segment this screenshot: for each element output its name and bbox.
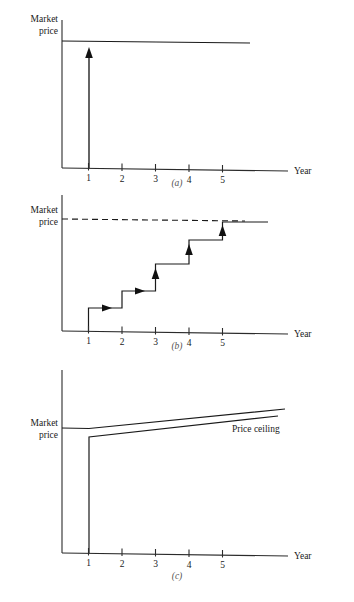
chart-panel-c: Market price Price ceiling 1 2 3 4 5 Yea…: [0, 358, 354, 588]
step-adjustment-path-b: [89, 222, 269, 331]
step-arrow-right-1-b: [102, 304, 112, 311]
y-axis-label-c-line2: price: [39, 430, 58, 440]
step-arrow-right-2-b: [135, 287, 145, 294]
panel-caption-c: (c): [0, 571, 354, 581]
x-axis-label-a: Year: [294, 166, 312, 176]
figure-container: Market price 1 2 3 4 5 Year (a) Market p…: [0, 0, 354, 602]
price-ceiling-line-c: [89, 416, 278, 553]
panel-caption-b: (b): [0, 341, 354, 351]
y-axis-label-b-line1: Market: [31, 205, 59, 215]
market-price-line-a: [62, 41, 250, 43]
step-arrow-up-4-b: [185, 244, 193, 255]
tick-label-c-4: 4: [187, 560, 192, 570]
y-axis-label-c-line1: Market: [31, 418, 59, 428]
y-axis-label-a-line1: Market: [31, 14, 59, 24]
panel-caption-a: (a): [0, 178, 354, 188]
tick-label-c-5: 5: [220, 560, 225, 570]
chart-panel-b: Market price 1 2 3 4 5 Year: [0, 195, 354, 358]
tick-label-c-3: 3: [153, 559, 158, 569]
y-axis-label-b-line2: price: [39, 217, 58, 227]
price-jump-arrow-head-a: [85, 47, 93, 58]
tick-label-c-2: 2: [120, 559, 125, 569]
x-axis-label-c: Year: [294, 551, 312, 561]
x-axis-b: [62, 331, 288, 334]
tick-label-c-1: 1: [86, 558, 91, 568]
price-ceiling-label: Price ceiling: [232, 424, 280, 434]
step-arrow-up-5-b: [219, 225, 227, 236]
x-axis-label-b: Year: [294, 329, 312, 339]
chart-panel-a: Market price 1 2 3 4 5 Year: [0, 0, 354, 195]
step-arrow-up-3-b: [152, 268, 160, 279]
x-axis-a: [62, 168, 288, 171]
y-axis-label-a-line2: price: [39, 26, 58, 36]
x-axis-c: [62, 553, 288, 556]
market-price-dashed-line-b: [62, 219, 245, 221]
